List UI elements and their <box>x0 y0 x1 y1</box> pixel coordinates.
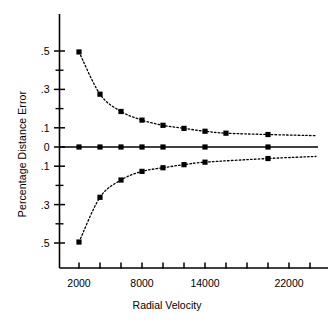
chart-plot-area <box>0 0 334 322</box>
data-point-marker <box>139 144 144 149</box>
data-point-marker <box>181 162 186 167</box>
y-axis-tick-label: 0 <box>30 141 50 153</box>
data-point-marker <box>139 169 144 174</box>
data-point-marker <box>160 165 165 170</box>
chart-figure: Percentage Distance Error Radial Velocit… <box>0 0 334 322</box>
x-axis-tick-label: 14000 <box>190 277 219 289</box>
data-point-marker <box>160 123 165 128</box>
y-axis-tick-label: .5 <box>30 237 50 249</box>
data-point-marker <box>118 177 123 182</box>
y-axis-tick-label: .1 <box>30 160 50 172</box>
data-point-marker <box>97 144 102 149</box>
data-point-marker <box>202 160 207 165</box>
y-axis-tick-label: .3 <box>30 199 50 211</box>
y-axis-tick-label: .3 <box>30 83 50 95</box>
x-axis-tick-label: 22000 <box>274 277 303 289</box>
data-point-marker <box>265 156 270 161</box>
data-point-marker <box>223 131 228 136</box>
y-axis-title: Percentage Distance Error <box>16 54 28 254</box>
data-point-marker <box>76 49 81 54</box>
data-point-marker <box>202 129 207 134</box>
data-point-marker <box>160 144 165 149</box>
data-point-marker <box>118 144 123 149</box>
y-axis-tick-label: .5 <box>30 45 50 57</box>
series-trend-line <box>79 156 316 242</box>
data-point-marker <box>76 239 81 244</box>
data-point-marker <box>118 109 123 114</box>
data-point-marker <box>181 126 186 131</box>
data-point-marker <box>265 132 270 137</box>
x-axis-tick-label: 2000 <box>67 277 90 289</box>
data-point-marker <box>97 92 102 97</box>
data-point-marker <box>97 195 102 200</box>
series-trend-line <box>79 52 316 136</box>
x-axis-title: Radial Velocity <box>0 299 334 311</box>
y-axis-tick-label: .1 <box>30 122 50 134</box>
data-point-marker <box>265 144 270 149</box>
data-point-marker <box>139 118 144 123</box>
data-point-marker <box>202 144 207 149</box>
data-point-marker <box>76 144 81 149</box>
x-axis-tick-label: 8000 <box>130 277 153 289</box>
